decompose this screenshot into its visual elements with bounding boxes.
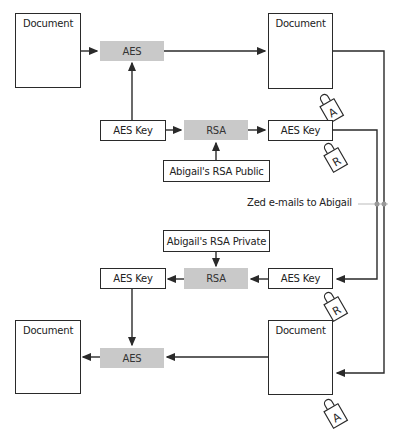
lock-icon-a-top: A [316,91,344,123]
lock-icon-a-bottom: A [320,396,348,428]
decrypted-aes-key-box: AES Key [100,268,166,289]
rsa-encrypt-process: RSA [184,120,248,140]
lock-icon-r-bottom: R [320,289,348,321]
received-document: Document [268,320,333,395]
rsa-public-key-box: Abigail's RSA Public [163,160,270,182]
source-document-label: Document [23,18,73,29]
encrypted-aes-key-box: AES Key [268,120,333,141]
aes-encrypt-process: AES [100,41,164,61]
decrypted-document-label: Document [23,325,73,336]
encrypted-aes-key-label: AES Key [281,125,320,136]
received-aes-key-label: AES Key [281,273,320,284]
decrypted-document: Document [15,320,81,394]
transfer-label: Zed e-mails to Abigail [247,197,352,208]
source-document: Document [15,13,81,88]
aes-encrypt-label: AES [123,46,142,57]
lock-icon-r-top: R [320,140,348,172]
rsa-decrypt-process: RSA [184,268,248,289]
aes-decrypt-process: AES [100,348,164,368]
aes-key-box: AES Key [100,120,166,141]
decrypted-aes-key-label: AES Key [113,273,152,284]
received-aes-key-box: AES Key [268,268,333,289]
encrypted-document: Document [268,13,333,89]
rsa-decrypt-label: RSA [206,273,226,284]
received-document-label: Document [275,325,325,336]
aes-decrypt-label: AES [123,353,142,364]
encrypted-document-label: Document [275,18,325,29]
rsa-private-key-box: Abigail's RSA Private [163,230,270,252]
aes-key-label: AES Key [113,125,152,136]
rsa-private-key-label: Abigail's RSA Private [167,236,266,247]
rsa-encrypt-label: RSA [206,125,226,136]
rsa-public-key-label: Abigail's RSA Public [169,166,263,177]
